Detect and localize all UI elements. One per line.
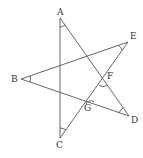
angle-mark-D <box>119 108 123 113</box>
angle-mark-C <box>60 128 66 130</box>
label-B: B <box>11 75 18 84</box>
angle-mark-B <box>30 76 31 82</box>
label-C: C <box>56 141 63 150</box>
segment-AD <box>60 18 129 116</box>
figure-lines <box>0 0 143 158</box>
label-D: D <box>131 116 138 125</box>
angle-mark-F <box>99 85 107 87</box>
label-F: F <box>107 72 113 81</box>
angle-mark-A <box>60 25 65 27</box>
label-G: G <box>84 104 91 113</box>
label-A: A <box>57 8 64 17</box>
label-E: E <box>130 32 137 41</box>
segment-BD <box>21 79 129 116</box>
angle-mark-E <box>118 45 122 50</box>
star-figure: A B C D E F G <box>0 0 143 158</box>
segment-EC <box>60 42 128 138</box>
